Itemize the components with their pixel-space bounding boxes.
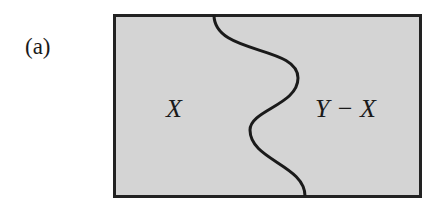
region-label-y-minus-x: Y − X — [315, 94, 377, 123]
region-label-x: X — [165, 94, 183, 123]
panel-label: (a) — [25, 34, 51, 59]
venn-style-diagram: (a) X Y − X — [0, 0, 445, 217]
